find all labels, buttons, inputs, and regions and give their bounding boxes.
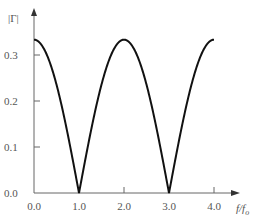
x-tick-label: 1.0 — [72, 200, 86, 212]
y-ticks: 0.00.10.20.3 — [4, 49, 40, 199]
y-tick-label: 0.0 — [4, 187, 18, 199]
x-tick-label: 3.0 — [162, 200, 176, 212]
y-tick-label: 0.2 — [4, 95, 18, 107]
x-axis-arrow-icon — [231, 190, 240, 196]
x-tick-label: 2.0 — [117, 200, 131, 212]
x-axis-label: f/fo — [236, 202, 249, 217]
y-tick-label: 0.3 — [4, 49, 18, 61]
axes — [31, 8, 240, 196]
x-tick-label: 4.0 — [207, 200, 221, 212]
y-tick-label: 0.1 — [4, 141, 18, 153]
gamma-curve — [34, 40, 214, 193]
y-axis-arrow-icon — [31, 8, 37, 16]
y-axis-label: |Γ| — [8, 12, 19, 24]
x-ticks: 0.01.02.03.04.0 — [27, 187, 221, 212]
chart: 0.00.10.20.3 0.01.02.03.04.0 |Γ| f/fo — [0, 0, 264, 223]
x-tick-label: 0.0 — [27, 200, 41, 212]
